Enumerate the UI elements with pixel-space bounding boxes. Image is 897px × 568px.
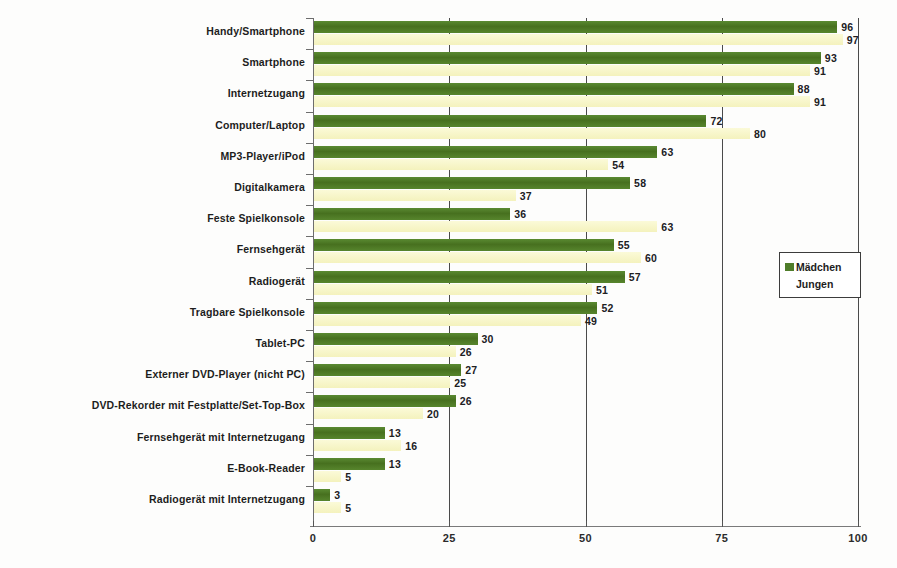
value-label-maedchen: 52: [601, 302, 613, 314]
bar-maedchen: [314, 364, 461, 376]
y-tick-13: [306, 424, 313, 425]
value-label-maedchen: 72: [710, 115, 722, 127]
value-label-jungen: 60: [645, 252, 657, 264]
bar-maedchen: [314, 177, 630, 189]
category-label: Smartphone: [242, 56, 305, 68]
value-label-maedchen: 30: [482, 333, 494, 345]
category-label: Externer DVD-Player (nicht PC): [145, 368, 305, 380]
category-label: Radiogerät: [249, 275, 305, 287]
bar-maedchen: [314, 83, 794, 95]
category-label: Tragbare Spielkonsole: [190, 306, 305, 318]
y-tick-10: [306, 330, 313, 331]
bar-jungen: [314, 159, 608, 170]
value-label-jungen: 49: [585, 315, 597, 327]
value-label-jungen: 63: [661, 221, 673, 233]
x-tick-25: [449, 521, 450, 527]
legend-label-jungen: Jungen: [796, 278, 833, 290]
bar-jungen: [314, 96, 810, 107]
value-label-jungen: 91: [814, 96, 826, 108]
value-label-jungen: 97: [847, 34, 859, 46]
y-tick-1: [306, 49, 313, 50]
category-label: Computer/Laptop: [215, 119, 305, 131]
bar-jungen: [314, 221, 657, 232]
x-tick-label-50: 50: [579, 532, 592, 544]
bar-jungen: [314, 502, 341, 513]
bar-maedchen: [314, 489, 330, 501]
value-label-jungen: 25: [454, 377, 466, 389]
value-label-maedchen: 58: [634, 177, 646, 189]
y-tick-14: [306, 455, 313, 456]
value-label-jungen: 26: [460, 346, 472, 358]
bar-maedchen: [314, 427, 385, 439]
value-label-maedchen: 88: [798, 83, 810, 95]
x-tick-100: [858, 521, 859, 527]
value-label-maedchen: 26: [460, 395, 472, 407]
y-tick-11: [306, 361, 313, 362]
bar-maedchen: [314, 395, 456, 407]
y-tick-0: [306, 18, 313, 19]
value-label-maedchen: 13: [389, 427, 401, 439]
bar-maedchen: [314, 21, 837, 33]
value-label-maedchen: 93: [825, 52, 837, 64]
bar-jungen: [314, 34, 843, 45]
value-label-maedchen: 3: [334, 489, 340, 501]
x-tick-label-25: 25: [443, 532, 456, 544]
y-tick-2: [306, 80, 313, 81]
y-tick-12: [306, 392, 313, 393]
value-label-maedchen: 13: [389, 458, 401, 470]
legend-label-maedchen: Mädchen: [796, 261, 842, 273]
category-label: Digitalkamera: [234, 181, 305, 193]
category-label: Fernsehgerät mit Internetzugang: [137, 431, 305, 443]
bar-jungen: [314, 128, 750, 139]
category-label: MP3-Player/iPod: [220, 150, 305, 162]
x-tick-label-75: 75: [715, 532, 728, 544]
value-label-jungen: 5: [345, 471, 351, 483]
legend-item-maedchen[interactable]: Mädchen: [785, 258, 856, 275]
legend-item-jungen[interactable]: Jungen: [785, 275, 856, 292]
x-tick-label-0: 0: [310, 532, 316, 544]
value-label-maedchen: 27: [465, 364, 477, 376]
bar-maedchen: [314, 146, 657, 158]
x-tick-50: [586, 521, 587, 527]
category-label: Fernsehgerät: [237, 243, 305, 255]
value-label-maedchen: 57: [629, 271, 641, 283]
bar-jungen: [314, 65, 810, 76]
bar-maedchen: [314, 333, 478, 345]
x-tick-75: [722, 521, 723, 527]
category-label: DVD-Rekorder mit Festplatte/Set-Top-Box: [92, 399, 305, 411]
value-label-jungen: 5: [345, 502, 351, 514]
bar-maedchen: [314, 115, 706, 127]
bar-jungen: [314, 284, 592, 295]
bar-jungen: [314, 315, 581, 326]
bar-maedchen: [314, 208, 510, 220]
value-label-jungen: 51: [596, 284, 608, 296]
y-tick-6: [306, 205, 313, 206]
category-label: Radiogerät mit Internetzugang: [149, 493, 305, 505]
value-label-maedchen: 96: [841, 21, 853, 33]
y-tick-9: [306, 299, 313, 300]
y-tick-5: [306, 174, 313, 175]
bar-jungen: [314, 377, 450, 388]
bar-maedchen: [314, 302, 597, 314]
bar-jungen: [314, 252, 641, 263]
title-remnant: [120, 0, 450, 7]
value-label-jungen: 80: [754, 128, 766, 140]
category-label: Feste Spielkonsole: [207, 212, 305, 224]
value-label-maedchen: 55: [618, 239, 630, 251]
bar-jungen: [314, 471, 341, 482]
y-tick-15: [306, 486, 313, 487]
category-label: Internetzugang: [228, 87, 305, 99]
x-tick-0: [313, 521, 314, 527]
bar-maedchen: [314, 239, 614, 251]
bar-jungen: [314, 190, 516, 201]
bar-maedchen: [314, 271, 625, 283]
bar-jungen: [314, 440, 401, 451]
value-label-jungen: 20: [427, 408, 439, 420]
value-label-jungen: 54: [612, 159, 624, 171]
category-label: Handy/Smartphone: [206, 25, 305, 37]
value-label-jungen: 37: [520, 190, 532, 202]
y-tick-7: [306, 236, 313, 237]
legend: Mädchen Jungen: [779, 252, 861, 298]
x-tick-label-100: 100: [848, 532, 867, 544]
category-label: Tablet-PC: [255, 337, 305, 349]
